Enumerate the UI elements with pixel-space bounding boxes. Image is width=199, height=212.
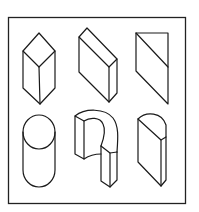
half-cylinder-slab-shape [138,114,166,186]
parallelogram-plane-shape [136,33,168,104]
rectangular-slab-shape [79,28,117,102]
cylinder-shape [23,115,55,187]
isometric-shapes-figure [0,0,199,212]
half-ring-arch-shape [75,110,118,187]
square-prism-shape [23,33,55,104]
